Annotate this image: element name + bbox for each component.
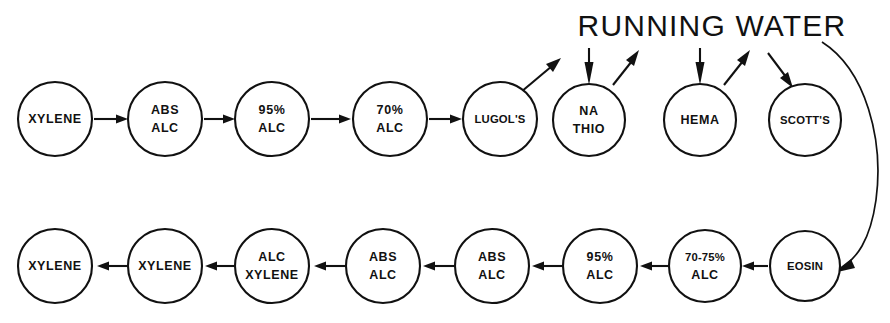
connector-na-thio-to-running-water [613, 50, 639, 85]
node-95-alc-bot[interactable]: 95% ALC [563, 229, 637, 303]
node-label-line1: ABS [478, 250, 506, 264]
node-hema[interactable]: HEMA [664, 84, 736, 156]
node-label: EOSIN [787, 260, 823, 272]
node-label: XYLENE [28, 259, 82, 273]
connector-running-water-to-hema [696, 48, 705, 85]
node-label-line2: THIO [573, 122, 605, 136]
node-scotts[interactable]: SCOTT'S [769, 84, 841, 156]
node-label-line1: ABS [151, 103, 179, 117]
connector-running-water-to-scotts [768, 53, 793, 88]
connector-bot-3-2 [205, 262, 234, 271]
node-label-line1: ABS [369, 250, 397, 264]
connector-bot-2-1 [97, 262, 127, 271]
running-water-heading: RUNNING WATER [578, 9, 847, 42]
node-label-line2: ALC [376, 121, 404, 135]
node-abs-alc-top-1[interactable]: ABS ALC [128, 82, 202, 156]
node-label-line2: ALC [586, 268, 614, 282]
node-xylene-bot-2[interactable]: XYLENE [128, 229, 202, 303]
node-label-line2: ALC [369, 268, 397, 282]
connector-bot-6-5 [532, 262, 562, 271]
node-label-line2: ALC [151, 121, 179, 135]
connector-top-3-4 [311, 115, 351, 124]
diagram-canvas: RUNNING WATER [0, 0, 890, 323]
connector-top-2-3 [204, 115, 235, 124]
node-label-line2: ALC [478, 268, 506, 282]
node-label: HEMA [680, 113, 719, 127]
connector-hema-to-running-water [724, 50, 750, 85]
node-na-thio[interactable]: NA THIO [553, 84, 625, 156]
connector-top-4-5 [429, 115, 462, 124]
node-abs-alc-bot-2[interactable]: ABS ALC [455, 229, 529, 303]
node-lugols[interactable]: LUGOL'S [463, 82, 537, 156]
node-label-line1: ALC [258, 250, 286, 264]
connector-top-1-2 [94, 115, 128, 124]
node-eosin[interactable]: EOSIN [770, 231, 840, 301]
connector-scotts-to-eosin-curve [822, 42, 878, 273]
node-abs-alc-bot-1[interactable]: ABS ALC [346, 229, 420, 303]
node-label-line1: 95% [259, 103, 286, 117]
connector-bot-5-4 [423, 262, 454, 271]
node-label-line2: ALC [258, 121, 286, 135]
node-95-alc-top[interactable]: 95% ALC [235, 82, 309, 156]
connector-lugols-to-running-water [521, 58, 561, 92]
node-label: XYLENE [28, 112, 82, 126]
node-70-alc-top[interactable]: 70% ALC [353, 82, 427, 156]
connector-bot-7-6 [640, 262, 668, 271]
node-label-line1: 70% [377, 103, 404, 117]
node-70-75-alc[interactable]: 70-75% ALC [669, 230, 741, 302]
node-xylene-bot-1[interactable]: XYLENE [18, 229, 92, 303]
node-label-line2: XYLENE [245, 268, 299, 282]
node-label-line1: NA [579, 104, 598, 118]
connector-running-water-to-na-thio [585, 48, 594, 85]
connector-bot-8-7 [742, 262, 768, 271]
node-xylene-top[interactable]: XYLENE [18, 82, 92, 156]
node-label: SCOTT'S [780, 114, 830, 126]
node-label-line2: ALC [691, 268, 719, 282]
node-label: LUGOL'S [474, 113, 525, 125]
node-alc-xylene[interactable]: ALC XYLENE [235, 229, 309, 303]
node-label-line1: 70-75% [685, 251, 725, 263]
connector-bot-4-3 [314, 262, 345, 271]
staining-protocol-diagram: RUNNING WATER [0, 0, 890, 323]
node-label-line1: 95% [587, 250, 614, 264]
node-label: XYLENE [138, 259, 192, 273]
